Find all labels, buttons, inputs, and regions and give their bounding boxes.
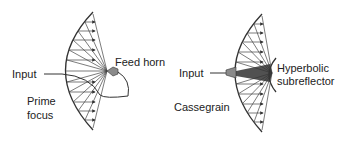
input-label-cassegrain: Input <box>179 67 203 79</box>
prime-focus-diagram <box>44 12 129 130</box>
feed-beam <box>236 64 272 82</box>
feed-horn-label: Feed horn <box>115 56 165 68</box>
prime-label-line2: focus <box>27 109 53 121</box>
cassegrain-label: Cassegrain <box>174 101 230 113</box>
feed-horn <box>226 67 236 78</box>
subreflector-label-line1: Hyperbolic <box>277 62 329 74</box>
feed-cable <box>62 72 129 97</box>
input-label: Input <box>12 68 36 80</box>
cassegrain-diagram <box>210 14 276 132</box>
subreflector-label-line2: subreflector <box>277 75 334 87</box>
feed-horn <box>107 67 118 76</box>
prime-label-line1: Prime <box>27 95 56 107</box>
